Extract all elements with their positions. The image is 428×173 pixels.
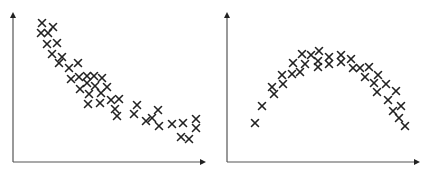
- x-marker-icon: [402, 123, 409, 130]
- x-marker-icon: [396, 115, 403, 122]
- x-marker-icon: [92, 83, 99, 90]
- x-marker-icon: [371, 80, 378, 87]
- x-marker-icon: [390, 108, 397, 115]
- x-marker-icon: [326, 54, 333, 61]
- x-marker-icon: [84, 73, 91, 80]
- x-marker-icon: [289, 71, 296, 78]
- x-marker-icon: [76, 74, 83, 81]
- x-marker-icon: [91, 73, 98, 80]
- x-marker-icon: [279, 72, 286, 79]
- x-marker-icon: [84, 80, 91, 87]
- x-marker-icon: [114, 113, 121, 120]
- x-marker-icon: [155, 107, 162, 114]
- x-marker-icon: [66, 65, 73, 72]
- x-marker-icon: [326, 61, 333, 68]
- y-axis-arrow-icon: [224, 12, 230, 18]
- x-marker-icon: [54, 40, 61, 47]
- x-marker-icon: [156, 123, 163, 130]
- x-marker-icon: [374, 89, 381, 96]
- x-marker-icon: [398, 103, 405, 110]
- x-marker-icon: [357, 65, 364, 72]
- x-marker-icon: [297, 69, 304, 76]
- x-marker-icon: [308, 52, 315, 59]
- x-axis-arrow-icon: [200, 159, 206, 165]
- x-marker-icon: [131, 111, 138, 118]
- x-marker-icon: [338, 52, 345, 59]
- x-marker-icon: [77, 86, 84, 93]
- x-marker-icon: [350, 65, 357, 72]
- x-marker-icon: [38, 30, 45, 37]
- plot-canvas-left: [0, 0, 214, 173]
- x-marker-icon: [290, 60, 297, 67]
- x-marker-icon: [86, 91, 93, 98]
- x-marker-icon: [375, 72, 382, 79]
- x-marker-icon: [280, 81, 287, 88]
- scatter-plot-inverted-u: [214, 0, 428, 173]
- x-marker-icon: [99, 75, 106, 82]
- x-marker-icon: [302, 61, 309, 68]
- x-marker-icon: [193, 116, 200, 123]
- x-marker-icon: [348, 56, 355, 63]
- x-marker-icon: [39, 20, 46, 27]
- x-marker-icon: [108, 97, 115, 104]
- y-axis-arrow-icon: [10, 12, 16, 18]
- x-marker-icon: [116, 96, 123, 103]
- plot-canvas-right: [214, 0, 428, 173]
- x-marker-icon: [259, 103, 266, 110]
- x-marker-icon: [385, 97, 392, 104]
- x-marker-icon: [44, 41, 51, 48]
- x-marker-icon: [98, 90, 105, 97]
- x-marker-icon: [383, 81, 390, 88]
- x-marker-icon: [180, 120, 187, 127]
- x-marker-icon: [338, 59, 345, 66]
- x-marker-icon: [186, 136, 193, 143]
- x-marker-icon: [252, 120, 259, 127]
- x-marker-icon: [134, 102, 141, 109]
- x-marker-icon: [366, 64, 373, 71]
- x-marker-icon: [362, 74, 369, 81]
- x-marker-icon: [68, 76, 75, 83]
- x-marker-icon: [315, 64, 322, 71]
- x-marker-icon: [97, 100, 104, 107]
- x-marker-icon: [49, 51, 56, 58]
- x-axis-arrow-icon: [414, 159, 420, 165]
- x-marker-icon: [85, 101, 92, 108]
- x-marker-icon: [316, 48, 323, 55]
- x-marker-icon: [75, 60, 82, 67]
- x-marker-icon: [271, 91, 278, 98]
- x-marker-icon: [193, 125, 200, 132]
- x-marker-icon: [178, 134, 185, 141]
- x-marker-icon: [169, 121, 176, 128]
- x-marker-icon: [112, 106, 119, 113]
- x-marker-icon: [393, 88, 400, 95]
- x-marker-icon: [299, 51, 306, 58]
- x-marker-icon: [50, 24, 57, 31]
- scatter-plot-decreasing: [0, 0, 214, 173]
- x-marker-icon: [269, 84, 276, 91]
